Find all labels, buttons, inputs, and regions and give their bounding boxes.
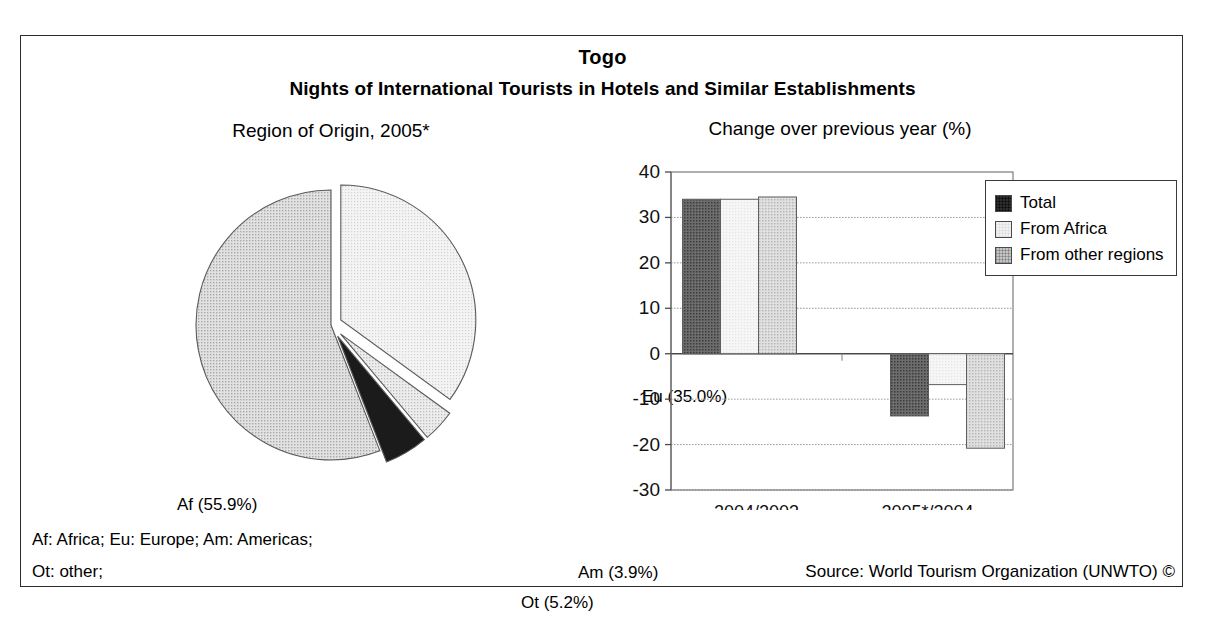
- pie-label-africa: Af (55.9%): [177, 495, 257, 515]
- pie-slices: [196, 185, 476, 462]
- legend-label-from-africa: From Africa: [1020, 219, 1107, 239]
- x-axis-tick-labels: 2004/20032005*/2004: [714, 502, 974, 510]
- legend-swatch-from-other-regions: [995, 247, 1012, 264]
- x-axis-tick-label: 2004/2003: [714, 502, 799, 510]
- y-axis-tick-label: 40: [639, 161, 660, 182]
- bar-chart-svg: 403020100-10-20-30 2004/20032005*/2004: [603, 160, 1023, 510]
- pie-chart-svg: [150, 150, 530, 500]
- bar-chart: 403020100-10-20-30 2004/20032005*/2004: [603, 160, 1023, 510]
- chart-legend: Total From Africa From other regions: [985, 180, 1177, 276]
- bar-20042003-from-other-regions: [759, 197, 797, 354]
- bar-rects: [683, 197, 1005, 448]
- bar-20052004-from-other-regions: [967, 354, 1005, 448]
- legend-item-from-africa: From Africa: [995, 219, 1164, 239]
- y-axis-tick-label: -20: [633, 434, 660, 455]
- legend-swatch-total: [995, 195, 1012, 212]
- bar-20042003-from-africa: [721, 199, 759, 353]
- pie-chart-caption: Region of Origin, 2005*: [96, 120, 566, 142]
- abbreviation-note-line-1: Af: Africa; Eu: Europe; Am: Americas;: [32, 530, 313, 550]
- y-axis-tick-labels: 403020100-10-20-30: [633, 161, 660, 500]
- page-title: Togo: [0, 46, 1205, 69]
- y-axis-tick-label: 30: [639, 206, 660, 227]
- bar-chart-caption: Change over previous year (%): [625, 118, 1055, 140]
- source-note: Source: World Tourism Organization (UNWT…: [805, 562, 1175, 582]
- pie-label-other: Ot (5.2%): [521, 593, 594, 613]
- legend-label-from-other-regions: From other regions: [1020, 245, 1164, 265]
- x-axis-tick-label: 2005*/2004: [881, 502, 973, 510]
- legend-item-total: Total: [995, 193, 1164, 213]
- pie-label-americas: Am (3.9%): [578, 563, 658, 583]
- y-axis-tick-label: -10: [633, 388, 660, 409]
- bar-20042003-total: [683, 199, 721, 353]
- bar-20052004-from-africa: [929, 354, 967, 385]
- legend-label-total: Total: [1020, 193, 1056, 213]
- y-axis-tick-label: 20: [639, 252, 660, 273]
- pie-chart: Af (55.9%) Eu (35.0%) Am (3.9%) Ot (5.2%…: [150, 150, 530, 500]
- figure-page: Togo Nights of International Tourists in…: [0, 0, 1205, 624]
- page-subtitle: Nights of International Tourists in Hote…: [0, 78, 1205, 100]
- y-axis-tick-label: 10: [639, 297, 660, 318]
- y-axis-tick-label: -30: [633, 479, 660, 500]
- abbreviation-note-line-2: Ot: other;: [32, 562, 103, 582]
- y-axis-tick-label: 0: [649, 343, 660, 364]
- legend-item-from-other-regions: From other regions: [995, 245, 1164, 265]
- legend-swatch-from-africa: [995, 221, 1012, 238]
- bar-20052004-total: [891, 354, 929, 416]
